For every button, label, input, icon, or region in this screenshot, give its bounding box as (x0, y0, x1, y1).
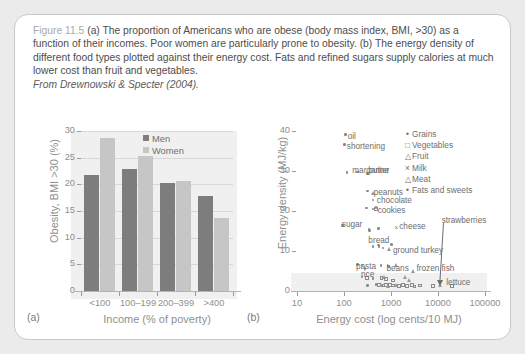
bar-men (198, 196, 213, 291)
data-point (372, 199, 375, 202)
y-tick (77, 264, 81, 265)
cross-marker-icon: × (403, 163, 412, 174)
point-label: beans (386, 264, 408, 273)
point-label: frozen fish (417, 264, 455, 273)
point-label: sugar (342, 220, 362, 229)
legend-a: Men Women (143, 133, 184, 157)
y-tick-label: 20 (59, 178, 75, 188)
bar-men (160, 183, 175, 291)
legend-label: Fruit (412, 151, 429, 161)
y-tick-label: 0 (59, 285, 75, 295)
point-label: cheese (399, 222, 425, 231)
data-point (377, 227, 380, 230)
data-point (366, 190, 369, 193)
x-tick (119, 292, 120, 296)
data-point (380, 264, 383, 267)
bar-women (176, 181, 191, 291)
y-tick (77, 131, 81, 132)
panel-label-a: (a) (27, 311, 40, 323)
point-label: shortening (347, 142, 385, 151)
x-tick (157, 292, 158, 296)
x-tick-label: 100–199 (119, 298, 157, 308)
y-tick-label: 40 (273, 125, 290, 135)
data-point (431, 284, 435, 288)
x-tick-label: 10 (275, 298, 319, 308)
legend-item-men: Men (143, 133, 184, 145)
panel-a-bar-chart: Obesity, BMI >30 (%) 051015202530<100100… (25, 123, 265, 335)
x-tick (233, 292, 234, 296)
legend-item-grains: •Grains (403, 129, 472, 140)
data-point (378, 245, 381, 248)
legend-label-women: Women (152, 146, 184, 156)
x-tick-label: 100000 (463, 298, 507, 308)
annotation-arrow-head (437, 280, 443, 286)
legend-item-meat: △Meat (403, 174, 472, 185)
y-tick (292, 251, 296, 252)
data-point (366, 284, 369, 287)
data-point (384, 277, 388, 281)
x-tick-label: 10000 (416, 298, 460, 308)
x-tick-label: <100 (81, 298, 119, 308)
legend-item-women: Women (143, 145, 184, 157)
legend-label: Fats and sweets (412, 185, 472, 195)
point-label: rice (361, 270, 374, 279)
x-axis-line (75, 291, 241, 292)
bar-men (122, 169, 137, 291)
x-tick (485, 292, 486, 296)
y-tick-label: 25 (59, 152, 75, 162)
point-label: strawberries (442, 216, 487, 225)
data-point (405, 284, 409, 288)
bar-men (84, 175, 99, 291)
data-point (382, 247, 385, 250)
y-tick-label: 30 (273, 165, 290, 175)
y-tick-label: 20 (273, 205, 290, 215)
y-tick (77, 158, 81, 159)
legend-b: •Grains□Vegetables△Fruit×Milk△Meat•Fats … (403, 129, 472, 196)
y-tick (77, 184, 81, 185)
figure-caption: Figure 11.5 (a) The proportion of Americ… (33, 24, 495, 91)
y-tick (77, 238, 81, 239)
legend-label: Grains (412, 129, 436, 139)
data-point (387, 247, 391, 251)
data-point (372, 245, 375, 248)
dot-marker-icon: • (403, 129, 412, 140)
figure-number: Figure 11.5 (33, 25, 84, 36)
legend-item-milk: ×Milk (403, 163, 472, 174)
open-square-marker-icon: □ (403, 140, 412, 151)
legend-item-fats-and-sweets: •Fats and sweets (403, 185, 472, 196)
y-tick (77, 211, 81, 212)
data-point (344, 133, 347, 136)
data-point (407, 278, 411, 282)
y-tick-label: 0 (273, 285, 290, 295)
gridline (81, 131, 233, 132)
point-label: chocolate (377, 196, 412, 205)
y-tick-label: 10 (59, 232, 75, 242)
x-tick-label: 1000 (369, 298, 413, 308)
point-label: oil (348, 132, 356, 141)
point-label: bread (368, 236, 389, 245)
panel-label-b: (b) (247, 311, 260, 323)
x-tick-label: 100 (322, 298, 366, 308)
data-point (418, 284, 422, 288)
x-tick (438, 292, 439, 296)
men-swatch-icon (143, 135, 149, 141)
legend-label: Milk (412, 163, 427, 173)
women-swatch-icon (143, 147, 149, 153)
x-tick (195, 292, 196, 296)
x-tick (81, 292, 82, 296)
x-tick-label: >400 (195, 298, 233, 308)
y-tick (292, 171, 296, 172)
legend-label: Meat (412, 174, 430, 184)
open-triangle-marker-icon: △ (403, 151, 412, 162)
x-tick (297, 292, 298, 296)
x-tick (391, 292, 392, 296)
point-label: butter (368, 166, 389, 175)
data-point (368, 229, 371, 232)
bar-women (214, 218, 229, 291)
bar-women (100, 138, 115, 291)
x-tick-label: 200–399 (157, 298, 195, 308)
x-tick (344, 292, 345, 296)
x-axis-title-a: Income (% of poverty) (69, 313, 245, 325)
data-point (365, 207, 368, 210)
data-point (391, 279, 395, 283)
